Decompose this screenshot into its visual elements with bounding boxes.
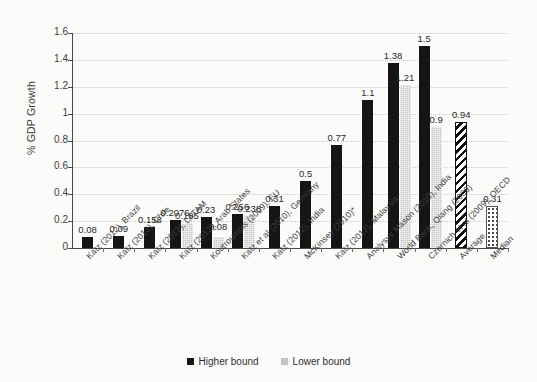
legend-label: Higher bound — [199, 356, 259, 367]
x-axis-category-labels: Katz (2012), BrazilKatz (2012), ChileKat… — [0, 0, 537, 382]
legend-swatch-higher — [187, 358, 194, 365]
x-axis-category-label: Katz (2012), Chile — [115, 204, 172, 261]
chart-legend: Higher boundLower bound — [0, 356, 537, 367]
legend-item[interactable]: Lower bound — [281, 356, 351, 367]
x-axis-category-label: Median — [488, 234, 515, 261]
gdp-growth-bar-chart: % GDP Growth 00.20.40.60.811.21.41.6 0.0… — [0, 0, 537, 382]
legend-label: Lower bound — [293, 356, 351, 367]
x-axis-category-label: Average — [457, 231, 487, 261]
legend-item[interactable]: Higher bound — [187, 356, 259, 367]
legend-swatch-lower — [281, 358, 288, 365]
x-axis-category-label: Katz (2012), Brazil — [84, 203, 142, 261]
x-axis-category-label: Katz (2012), LATAM — [146, 199, 208, 261]
